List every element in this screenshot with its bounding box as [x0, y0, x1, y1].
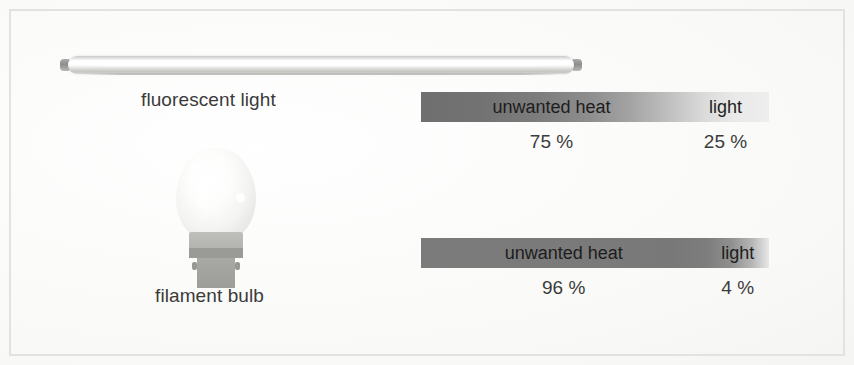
bulb-glass-envelope [176, 148, 256, 240]
bulb-sparkle-icon [191, 162, 201, 171]
energy-efficiency-diagram: fluorescent light filament bulb unwanted… [0, 0, 854, 365]
bulb-band [189, 248, 243, 258]
energy-bar-label-row: unwanted heat light [421, 238, 769, 268]
bulb-sparkle-icon [189, 174, 196, 180]
energy-bar-label-row: unwanted heat light [421, 92, 769, 122]
bar-value-light: 25 % [682, 131, 769, 153]
bar-segment-label-light: light [706, 243, 769, 264]
tube-glass-body [68, 56, 574, 74]
bulb-base [197, 258, 235, 288]
energy-bar-value-row: 96 % 4 % [421, 277, 769, 303]
filament-bulb-icon [168, 148, 264, 276]
energy-bar-fill-filament: unwanted heat light [421, 238, 769, 268]
bar-value-heat: 75 % [421, 131, 682, 153]
fluorescent-tube-icon [60, 52, 582, 78]
energy-bar-fill-fluorescent: unwanted heat light [421, 92, 769, 122]
bar-segment-label-heat: unwanted heat [421, 243, 706, 264]
energy-bar-fluorescent: unwanted heat light 75 % 25 % [421, 92, 769, 157]
caption-filament-bulb: filament bulb [155, 285, 264, 307]
tube-shadow-line [82, 73, 560, 75]
bulb-collar [189, 232, 243, 249]
bar-value-light: 4 % [706, 277, 769, 299]
energy-bar-filament: unwanted heat light 96 % 4 % [421, 238, 769, 303]
bar-value-heat: 96 % [421, 277, 706, 299]
bulb-sparkle-icon [236, 193, 245, 202]
bar-segment-label-light: light [682, 97, 769, 118]
tube-highlight [86, 63, 556, 66]
caption-fluorescent-light: fluorescent light [141, 89, 276, 111]
bar-segment-label-heat: unwanted heat [421, 97, 682, 118]
bulb-bayonet-pin-right [235, 262, 240, 270]
energy-bar-value-row: 75 % 25 % [421, 131, 769, 157]
